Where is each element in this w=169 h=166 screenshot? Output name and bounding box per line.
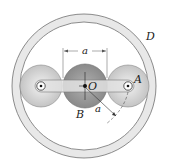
pin-left	[37, 82, 45, 90]
label-d: D	[145, 30, 155, 43]
label-a-pin: A	[133, 73, 142, 86]
pin-a	[124, 82, 132, 90]
label-o: O	[88, 80, 97, 93]
label-a-radial: a	[95, 103, 101, 114]
label-a-top: a	[82, 45, 88, 56]
planetary-gear-diagram: D a O A B a	[0, 0, 169, 166]
label-b: B	[75, 108, 84, 121]
